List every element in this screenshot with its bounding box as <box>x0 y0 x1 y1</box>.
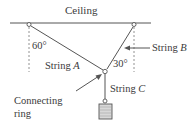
ceiling-label: Ceiling <box>65 5 97 16</box>
string-a-label: String A <box>45 61 80 72</box>
connecting-ring-label-line2: ring <box>14 109 31 120</box>
hanging-weight <box>99 104 112 119</box>
angle-b-label: 30° <box>113 59 128 70</box>
connecting-ring-arrowhead <box>96 74 103 80</box>
string-c-label: String C <box>110 84 145 95</box>
weight-hook <box>103 99 107 103</box>
tension-diagram: Ceiling 60° 30° String A String B String… <box>0 0 195 127</box>
string-b-arrowhead <box>124 46 130 51</box>
right-anchor-ring <box>132 23 136 27</box>
connecting-ring <box>103 69 107 73</box>
angle-a-label: 60° <box>32 41 47 52</box>
string-b-label: String B <box>152 43 187 54</box>
left-anchor-ring <box>27 23 31 27</box>
connecting-ring-label-line1: Connecting <box>14 96 62 107</box>
connecting-ring-pointer <box>76 76 99 91</box>
